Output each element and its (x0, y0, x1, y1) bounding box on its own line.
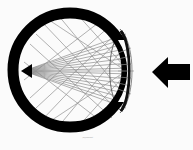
handwritten-mark: ~~~ (82, 134, 93, 143)
figure-root: ~~~ (0, 0, 193, 150)
ray-diagram-svg (0, 0, 193, 150)
